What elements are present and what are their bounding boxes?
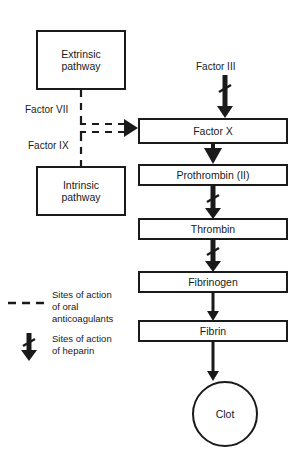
node-extrinsic-pathway[interactable]: Extrinsic pathway <box>36 30 126 90</box>
connector-fibrinogen-to-fibrin <box>207 293 219 321</box>
dashed-arrowhead <box>124 119 138 137</box>
connector-factor-iii-to-factor-x <box>217 75 233 118</box>
legend-oral-anticoagulants-label: Sites of action of oral anticoagulants <box>52 289 113 325</box>
legend-heparin-label: Sites of action of heparin <box>52 333 112 357</box>
label-factor-vii: Factor VII <box>25 104 68 115</box>
label-factor-iii: Factor III <box>196 61 235 72</box>
node-fibrinogen[interactable]: Fibrinogen <box>138 271 288 293</box>
node-clot[interactable]: Clot <box>192 381 258 447</box>
node-intrinsic-pathway[interactable]: Intrinsic pathway <box>36 166 126 216</box>
connector-intrinsic-to-factor-x <box>81 132 124 134</box>
label-factor-ix: Factor IX <box>28 140 69 151</box>
connector-fibrin-to-clot <box>207 342 219 381</box>
connector-prothrombin-to-thrombin <box>205 186 221 219</box>
node-prothrombin-label: Prothrombin (II) <box>177 169 250 181</box>
coagulation-cascade-diagram: Extrinsic pathway Intrinsic pathway Fact… <box>0 0 306 449</box>
connector-extrinsic-to-factor-x <box>81 122 124 124</box>
node-fibrin[interactable]: Fibrin <box>138 320 288 342</box>
node-thrombin-label: Thrombin <box>191 223 235 235</box>
node-intrinsic-pathway-label: Intrinsic pathway <box>61 179 100 204</box>
node-thrombin[interactable]: Thrombin <box>138 218 288 240</box>
node-prothrombin[interactable]: Prothrombin (II) <box>138 164 288 186</box>
node-clot-label: Clot <box>216 408 235 420</box>
node-extrinsic-pathway-label: Extrinsic pathway <box>61 48 101 73</box>
connector-factor-x-to-prothrombin <box>204 144 222 164</box>
legend-barbed-arrow-icon <box>21 333 37 361</box>
node-factor-x-label: Factor X <box>193 125 233 137</box>
node-fibrin-label: Fibrin <box>200 325 226 337</box>
connector-thrombin-to-fibrinogen <box>205 240 221 272</box>
node-fibrinogen-label: Fibrinogen <box>188 276 238 288</box>
node-factor-x[interactable]: Factor X <box>138 118 288 144</box>
